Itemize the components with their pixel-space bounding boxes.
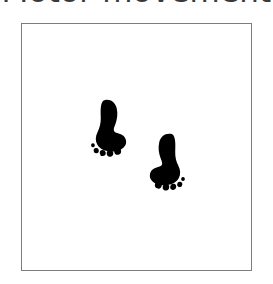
footprints-illustration bbox=[22, 24, 251, 270]
footprint-figure-panel bbox=[21, 23, 252, 271]
left-footprint-toe-2 bbox=[93, 148, 99, 154]
right-footprint-toe-1 bbox=[181, 177, 185, 181]
right-footprint bbox=[148, 132, 191, 193]
left-footprint bbox=[85, 98, 128, 159]
right-footprint-sole bbox=[149, 132, 186, 188]
right-footprint-toe-2 bbox=[177, 181, 183, 187]
left-footprint-toe-1 bbox=[91, 143, 95, 147]
right-footprint-toe-3 bbox=[170, 183, 177, 190]
figure-caption-clip: Motor movement bbox=[0, 0, 273, 13]
left-footprint-toe-3 bbox=[99, 150, 106, 157]
figure-caption: Motor movement bbox=[2, 0, 272, 7]
left-footprint-sole bbox=[90, 98, 127, 154]
